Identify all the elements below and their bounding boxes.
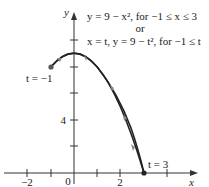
x-axis-label: x (188, 176, 194, 187)
end-label: t = 3 (148, 158, 169, 170)
start-label: t = −1 (26, 72, 52, 84)
x-tick-label: 0 (65, 175, 71, 187)
x-tick-label: 2 (117, 176, 123, 187)
y-axis-arrow-icon (71, 12, 77, 20)
parametric-curve-diagram: y x y = 9 − x², for −1 ≤ x ≤ 3 or x = t,… (0, 0, 209, 187)
direction-arrows (57, 55, 135, 151)
end-point (141, 170, 146, 175)
x-tick-label: −2 (21, 176, 33, 187)
equation-or: or (135, 22, 145, 34)
equation-line-1: y = 9 − x², for −1 ≤ x ≤ 3 (87, 10, 198, 22)
equation-line-2: x = t, y = 9 − t², for −1 ≤ t (87, 35, 201, 47)
start-point (48, 64, 53, 69)
y-tick-label: 4 (61, 114, 67, 126)
y-axis-label: y (63, 6, 69, 18)
